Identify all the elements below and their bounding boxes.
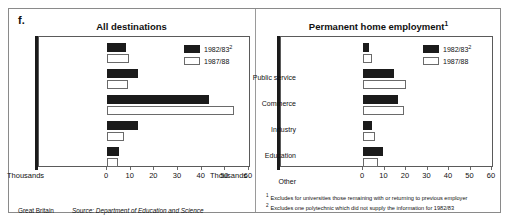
chart-figure: f. All destinations Research oracademic … bbox=[0, 0, 509, 223]
legend-label: 1982/832 bbox=[443, 44, 471, 53]
footnote-marker: 2 bbox=[266, 203, 269, 208]
bar-series2 bbox=[107, 158, 118, 167]
legend-item: 1982/832 bbox=[423, 44, 471, 54]
legend-label: 1987/88 bbox=[443, 58, 468, 65]
x-tick bbox=[427, 167, 428, 170]
chart-permanent-home-employment: Permanent home employment1 Public servic… bbox=[256, 8, 501, 213]
bar-series2 bbox=[363, 106, 404, 115]
footnote-2: 2Excludes one polytechnic which did not … bbox=[266, 202, 501, 212]
bar-series1 bbox=[107, 69, 138, 78]
footnotes: 1Excludes for universities those remaini… bbox=[266, 192, 501, 213]
x-tick-label: 10 bbox=[379, 171, 387, 180]
legend-swatch-light bbox=[423, 57, 439, 65]
chart-title-right: Permanent home employment1 bbox=[256, 20, 501, 32]
x-tick bbox=[384, 167, 385, 170]
bar-series1 bbox=[107, 43, 126, 52]
bar-series2 bbox=[363, 80, 406, 89]
bar-series2 bbox=[107, 54, 129, 63]
x-tick bbox=[491, 167, 492, 170]
legend-label: 1982/832 bbox=[204, 44, 232, 53]
legend-swatch-dark bbox=[184, 45, 200, 53]
figure-footer: Great Britain Source: Department of Educ… bbox=[8, 203, 255, 221]
footnote-text: Excludes one polytechnic which did not s… bbox=[271, 205, 454, 211]
bar-series2 bbox=[363, 158, 378, 167]
x-tick bbox=[177, 167, 178, 170]
legend-label-text: 1982/83 bbox=[443, 47, 468, 54]
x-tick bbox=[130, 167, 131, 170]
chart-title-right-sup: 1 bbox=[445, 20, 449, 27]
x-tick-label: 10 bbox=[125, 171, 133, 180]
x-tick-label: 50 bbox=[465, 171, 473, 180]
x-tick-label: 20 bbox=[149, 171, 157, 180]
x-tick bbox=[106, 167, 107, 170]
x-tick-label: 0 bbox=[360, 171, 364, 180]
bar-series1 bbox=[363, 69, 394, 78]
x-tick-label: 40 bbox=[444, 171, 452, 180]
x-tick bbox=[362, 167, 363, 170]
x-tick-label: 60 bbox=[487, 171, 495, 180]
x-tick-label: 30 bbox=[173, 171, 181, 180]
bar-series1 bbox=[107, 147, 119, 156]
legend-item: 1987/88 bbox=[423, 56, 471, 66]
footnote-text: Excludes for universities those remainin… bbox=[271, 195, 468, 201]
x-tick-label: 0 bbox=[104, 171, 108, 180]
x-tick bbox=[448, 167, 449, 170]
bar-series1 bbox=[363, 147, 383, 156]
footnote-marker: 1 bbox=[266, 193, 269, 198]
bar-series2 bbox=[363, 54, 372, 63]
x-axis-right: 0102030405060 bbox=[280, 167, 493, 189]
bar-series1 bbox=[107, 121, 138, 130]
footer-source: Source: Department of Education and Scie… bbox=[72, 207, 203, 214]
x-tick-label: 20 bbox=[401, 171, 409, 180]
footnote-1: 1Excludes for universities those remaini… bbox=[266, 192, 501, 202]
legend-label-text: 1982/83 bbox=[204, 47, 229, 54]
x-tick-label: 30 bbox=[422, 171, 430, 180]
x-tick-label: 40 bbox=[196, 171, 204, 180]
x-tick bbox=[201, 167, 202, 170]
legend-label-sup: 2 bbox=[229, 44, 232, 50]
bar-series1 bbox=[363, 95, 398, 104]
legend-right: 1982/832 1987/88 bbox=[423, 44, 471, 68]
x-tick bbox=[405, 167, 406, 170]
bar-series1 bbox=[107, 95, 209, 104]
axis-unit-right: Thousands bbox=[210, 171, 247, 180]
chart-title-right-text: Permanent home employment bbox=[309, 21, 445, 32]
legend-swatch-light bbox=[184, 57, 200, 65]
bar-series1 bbox=[363, 43, 369, 52]
bar-series1 bbox=[363, 121, 372, 130]
chart-title-left: All destinations bbox=[8, 20, 255, 32]
bar-series2 bbox=[363, 132, 375, 141]
x-tick bbox=[470, 167, 471, 170]
chart-title-left-text: All destinations bbox=[96, 21, 167, 32]
bar-series2 bbox=[107, 80, 128, 89]
x-tick bbox=[153, 167, 154, 170]
footer-region: Great Britain bbox=[18, 207, 54, 214]
legend-item: 1982/832 bbox=[184, 44, 232, 54]
bar-series2 bbox=[107, 132, 124, 141]
legend-label-sup: 2 bbox=[468, 44, 471, 50]
legend-swatch-dark bbox=[423, 45, 439, 53]
